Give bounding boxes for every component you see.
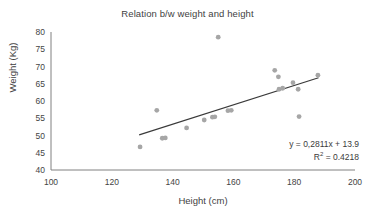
data-point	[184, 126, 189, 131]
data-points	[138, 35, 321, 150]
r-squared-number: = 0.4218	[323, 152, 359, 162]
data-point	[138, 144, 143, 149]
data-point	[280, 86, 285, 91]
data-point	[216, 35, 221, 40]
data-point	[297, 114, 302, 119]
data-point	[202, 118, 207, 123]
data-point	[154, 108, 159, 113]
data-point	[316, 73, 321, 78]
trendline-equation: y = 0,2811x + 13.9	[289, 138, 359, 150]
data-point	[272, 68, 277, 73]
trendline-annotation: y = 0,2811x + 13.9 R2 = 0.4218	[289, 138, 359, 163]
data-point	[229, 108, 234, 113]
r-squared-value: R2 = 0.4218	[289, 150, 359, 163]
data-point	[296, 87, 301, 92]
data-point	[212, 114, 217, 119]
scatter-plot-area	[0, 0, 375, 218]
chart-container: Relation b/w weight and height Weight (K…	[0, 0, 375, 218]
data-point	[291, 80, 296, 85]
trendline	[139, 78, 318, 135]
data-point	[163, 136, 168, 141]
data-point	[276, 74, 281, 79]
